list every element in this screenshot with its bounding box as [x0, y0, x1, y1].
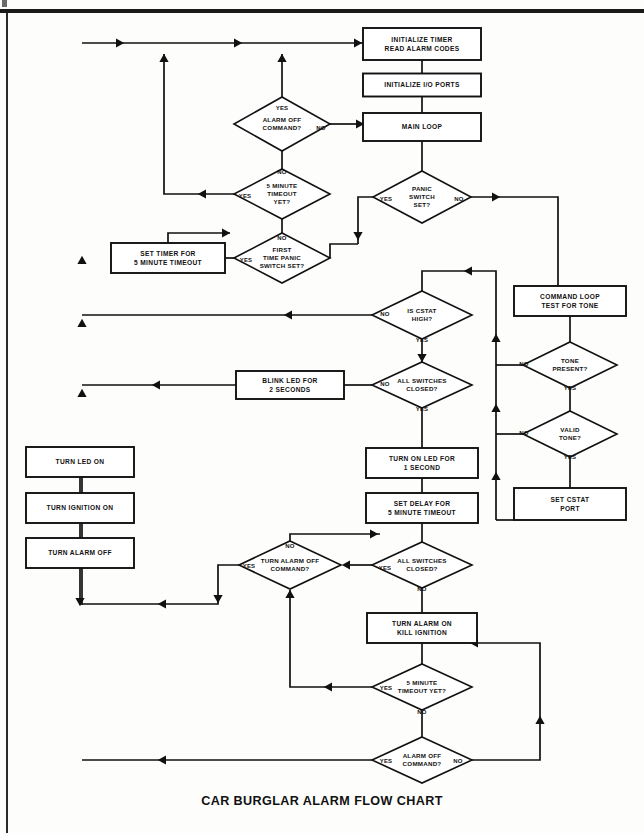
- node-text: COMMAND?: [263, 124, 302, 131]
- branch-label-no: NO: [453, 758, 463, 764]
- connector-cstat-top-junction: [422, 271, 476, 291]
- node-text: PORT: [560, 505, 580, 512]
- node-text: SWITCH: [409, 193, 435, 200]
- connector-blink-led-out-left: [82, 380, 236, 389]
- branch-label-yes: YES: [564, 385, 577, 391]
- node-set_cstat: SET CSTATPORT: [514, 488, 626, 520]
- node-text: CLOSED?: [406, 565, 437, 572]
- node-text: INITIALIZE TIMER: [391, 36, 452, 43]
- branch-label-yes: YES: [240, 257, 253, 263]
- branch-label-no: NO: [417, 709, 427, 715]
- connector-alarm-off-1-no-right: [330, 119, 364, 128]
- branch-label-no: NO: [380, 381, 390, 387]
- node-text: ALARM OFF: [263, 116, 302, 123]
- node-text: SET?: [414, 201, 431, 208]
- node-text: TURN ALARM OFF: [261, 557, 320, 564]
- node-text: SWITCH SET?: [260, 262, 305, 269]
- connector-all-sw2-yes-left: [342, 560, 372, 569]
- connector-alarm-off-box-down: [75, 568, 84, 606]
- node-blink_led: BLINK LED FOR2 SECONDS: [236, 371, 344, 399]
- node-text: COMMAND?: [403, 760, 442, 767]
- branch-label-no: NO: [277, 169, 287, 175]
- branch-label-yes: YES: [243, 563, 256, 569]
- branch-label-yes: YES: [416, 337, 429, 343]
- branch-label-yes: YES: [239, 193, 252, 199]
- node-led_1sec: TURN ON LED FOR1 SECOND: [366, 448, 478, 478]
- connector-alarm-off-2-yes-left: [82, 565, 239, 609]
- node-text: 2 SECONDS: [269, 386, 311, 393]
- node-text: INITIALIZE I/O PORTS: [384, 81, 460, 88]
- flowchart-page: INITIALIZE TIMERREAD ALARM CODESINITIALI…: [0, 0, 644, 833]
- node-text: VALID: [560, 426, 580, 433]
- node-text: YET?: [274, 198, 291, 205]
- node-text: TURN IGNITION ON: [47, 504, 114, 511]
- node-text: TIMEOUT YET?: [398, 687, 446, 694]
- node-text: ALL SWITCHES: [397, 377, 446, 384]
- node-init_timer: INITIALIZE TIMERREAD ALARM CODES: [363, 28, 481, 60]
- connector-right-rail-up: [464, 266, 501, 520]
- node-text: SET TIMER FOR: [140, 250, 195, 257]
- node-text: IS CSTAT: [407, 307, 436, 314]
- branch-label-no: NO: [285, 543, 295, 549]
- node-text: CLOSED?: [406, 385, 437, 392]
- connector-timeout2-yes-left-up: [285, 590, 372, 692]
- node-text: TURN ALARM OFF: [48, 549, 112, 556]
- node-text: SET DELAY FOR: [394, 500, 451, 507]
- branch-label-no: NO: [380, 311, 390, 317]
- connector-panic-yes-left-down: [353, 197, 373, 244]
- node-text: ALARM OFF: [403, 752, 442, 759]
- node-turn_led_on: TURN LED ON: [26, 447, 134, 477]
- node-tone_present: TONEPRESENT?: [523, 342, 617, 388]
- node-set_timer: SET TIMER FOR5 MINUTE TIMEOUT: [111, 243, 225, 273]
- node-cmd_loop: COMMAND LOOPTEST FOR TONE: [514, 286, 626, 316]
- node-text: 5 MINUTE: [267, 182, 298, 189]
- connector-alarm-off-1-yes-up: [277, 54, 286, 97]
- connector-cstat-no-left: [82, 310, 372, 319]
- branch-label-no: NO: [316, 125, 326, 131]
- node-valid_tone: VALIDTONE?: [523, 411, 617, 457]
- node-alarm_on: TURN ALARM ONKILL IGNITION: [367, 613, 477, 643]
- node-text: SET CSTAT: [551, 496, 590, 503]
- connector-alarm-off-2-no-up: [290, 529, 380, 541]
- branch-label-no: NO: [519, 430, 529, 436]
- node-text: PANIC: [412, 185, 432, 192]
- node-set_delay: SET DELAY FOR5 MINUTE TIMEOUT: [366, 493, 478, 523]
- node-text: KILL IGNITION: [397, 629, 447, 636]
- node-text: READ ALARM CODES: [385, 45, 460, 52]
- node-text: COMMAND LOOP: [540, 293, 600, 300]
- node-text: 5 MINUTE TIMEOUT: [134, 259, 202, 266]
- branch-label-yes: YES: [276, 105, 289, 111]
- node-text: TURN ON LED FOR: [389, 455, 455, 462]
- branch-label-yes: YES: [380, 758, 393, 764]
- node-text: TIMEOUT: [267, 190, 297, 197]
- chart-title: CAR BURGLAR ALARM FLOW CHART: [201, 794, 443, 808]
- nodes-layer: INITIALIZE TIMERREAD ALARM CODESINITIALI…: [26, 28, 626, 783]
- car-burglar-alarm-flowchart: INITIALIZE TIMERREAD ALARM CODESINITIALI…: [0, 0, 644, 833]
- branch-label-yes: YES: [564, 454, 577, 460]
- node-text: 5 MINUTE: [407, 679, 438, 686]
- connector-alarm-off-3-no-right-up: [470, 638, 545, 760]
- node-text: ALL SWITCHES: [397, 557, 446, 564]
- branch-label-no: NO: [519, 361, 529, 367]
- connector-set-timer-out-up: [168, 228, 230, 243]
- connector-alarm-off-3-yes-left: [82, 755, 372, 764]
- connectors-layer: [75, 38, 570, 764]
- branch-label-no: NO: [417, 586, 427, 592]
- node-text: TIME PANIC: [263, 254, 301, 261]
- connector-panic-no-right: [471, 192, 558, 286]
- node-ignition_on: TURN IGNITION ON: [26, 493, 134, 523]
- branch-label-yes: YES: [379, 565, 392, 571]
- branch-label-yes: YES: [416, 406, 429, 412]
- node-text: TONE: [561, 357, 579, 364]
- node-text: TONE?: [559, 434, 581, 441]
- connector-panic-yes-to-first: [330, 244, 358, 258]
- connector-timeout-yes-left-up: [159, 54, 234, 199]
- branch-label-no: NO: [277, 235, 287, 241]
- node-text: TURN LED ON: [56, 458, 105, 465]
- node-text: MAIN LOOP: [402, 123, 443, 130]
- branch-label-no: NO: [454, 196, 464, 202]
- node-text: TURN ALARM ON: [392, 620, 452, 627]
- node-text: 1 SECOND: [404, 464, 441, 471]
- node-text: 5 MINUTE TIMEOUT: [388, 509, 456, 516]
- node-text: FIRST: [272, 246, 291, 253]
